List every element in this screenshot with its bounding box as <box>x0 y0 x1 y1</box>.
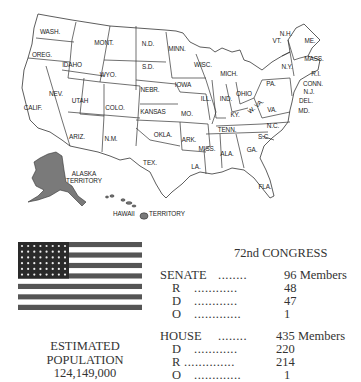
state-label-az: ARIZ. <box>69 133 85 140</box>
party-code: D <box>172 342 181 356</box>
state-label-ny: N.Y. <box>281 63 293 70</box>
leader-dots: ............ <box>194 342 238 356</box>
flag-star-icon <box>64 245 66 247</box>
state-label-la: LA. <box>191 163 201 170</box>
flag-star-icon <box>21 262 23 264</box>
flag-star-icon <box>21 268 23 270</box>
flag-star-icon <box>39 274 41 276</box>
house-party-row: O ............. 1 <box>172 368 361 382</box>
flag-star-icon <box>45 262 47 264</box>
flag-star-icon <box>21 245 23 247</box>
alaska-territory-label: ALASKA <box>72 170 97 177</box>
estimated-population: ESTIMATED POPULATION 124,149,000 <box>30 340 140 381</box>
us-map: WASH.OREG.IDAHOMONT.WYO.N.D.S.D.NEBR.KAN… <box>0 0 361 225</box>
flag-star-icon <box>52 251 54 253</box>
state-label-ga: GA. <box>247 146 258 153</box>
party-code: D <box>172 294 181 308</box>
state-label-nm: N.M. <box>104 135 117 142</box>
flag-star-icon <box>52 268 54 270</box>
party-code: O <box>172 368 181 382</box>
state-label-md: MD. <box>298 107 310 114</box>
state-label-va: VA. <box>267 106 277 113</box>
flag-star-icon <box>58 268 60 270</box>
flag-star-icon <box>21 274 23 276</box>
state-label-al: ALA. <box>220 150 234 157</box>
flag-star-icon <box>64 256 66 258</box>
flag-star-icon <box>33 245 35 247</box>
state-label-sc: S.C. <box>258 133 270 140</box>
hawaii-territory-label: HAWAII <box>113 210 135 217</box>
state-label-ne: NEBR. <box>140 86 159 93</box>
flag-star-icon <box>27 251 29 253</box>
state-label-sd: S.D. <box>142 63 154 70</box>
flag-stripe <box>18 300 142 305</box>
state-label-tn: TENN. <box>218 126 237 133</box>
flag-star-icon <box>52 245 54 247</box>
state-label-mi: MICH. <box>220 70 238 77</box>
state-label-oh: OHIO <box>236 90 252 97</box>
population-label-line2: POPULATION <box>30 354 140 368</box>
flag-star-icon <box>58 262 60 264</box>
state-label-ok: OKLA. <box>154 131 173 138</box>
leader-dots: ............. <box>194 368 241 382</box>
flag-star-icon <box>39 251 41 253</box>
state-label-nj: N.J. <box>304 88 315 95</box>
state-label-de: DEL. <box>299 97 313 104</box>
state-label-me: ME. <box>304 37 315 44</box>
house-label: HOUSE <box>160 329 202 343</box>
party-count: 220 <box>276 342 295 356</box>
state-label-or: OREG. <box>32 51 52 58</box>
flag-star-icon <box>58 274 60 276</box>
state-label-ut: UTAH <box>72 97 89 104</box>
flag-star-icon <box>64 274 66 276</box>
state-label-ma: MASS. <box>304 55 324 62</box>
flag-stripe <box>18 279 142 284</box>
state-label-nc: N.C. <box>267 122 280 129</box>
party-count: 1 <box>284 307 290 321</box>
hawaii-territory-label: TERRITORY <box>149 210 186 217</box>
flag-star-icon <box>58 245 60 247</box>
state-label-ar: ARK. <box>182 136 197 143</box>
house-total: 435 Members <box>276 329 345 343</box>
senate-total-row: SENATE ........ 96 Members <box>160 268 361 282</box>
flag-star-icon <box>52 262 54 264</box>
senate-total: 96 Members <box>284 268 347 282</box>
flag-stripe <box>18 284 142 289</box>
flag-star-icon <box>33 256 35 258</box>
party-count: 214 <box>276 355 295 369</box>
state-label-mt: MONT. <box>94 39 114 46</box>
flag-star-icon <box>27 256 29 258</box>
state-label-il: ILL. <box>201 95 212 102</box>
flag-star-icon <box>64 262 66 264</box>
state-label-nv: NEV. <box>49 90 63 97</box>
state-label-ks: KANSAS <box>140 108 165 115</box>
flag-stripe <box>18 289 142 294</box>
house-total-row: HOUSE ........ 435 Members <box>160 329 361 343</box>
state-label-ia: IOWA <box>175 81 192 88</box>
flag-star-icon <box>33 262 35 264</box>
flag-star-icon <box>45 256 47 258</box>
alaska-territory-label: TERRITORY <box>66 177 103 184</box>
state-label-pa: PA. <box>266 80 276 87</box>
flag-stripe <box>18 305 142 310</box>
party-code: O <box>172 307 181 321</box>
state-label-ky: KY. <box>230 111 240 118</box>
flag-star-icon <box>52 256 54 258</box>
state-label-id: IDAHO <box>62 61 82 68</box>
us-flag-48-star <box>18 242 142 310</box>
flag-star-icon <box>39 245 41 247</box>
flag-star-icon <box>39 256 41 258</box>
flag-stripe <box>18 294 142 299</box>
leader-dots: .............. <box>184 355 235 369</box>
flag-star-icon <box>27 262 29 264</box>
house-party-row: R .............. 214 <box>172 355 361 369</box>
flag-star-icon <box>33 268 35 270</box>
state-label-ca: CALIF. <box>24 104 43 111</box>
party-count: 48 <box>284 281 297 295</box>
state-label-in: IND. <box>220 95 233 102</box>
state-label-vt: VT. <box>273 37 282 44</box>
flag-star-icon <box>45 268 47 270</box>
flag-star-icon <box>45 245 47 247</box>
senate-party-row: R ............ 48 <box>172 281 361 295</box>
state-label-wi: WISC. <box>194 61 212 68</box>
